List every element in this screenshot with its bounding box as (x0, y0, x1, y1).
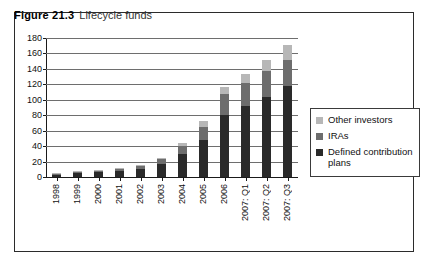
y-tick-label-180: 180 (27, 34, 42, 43)
legend-swatch-iras-icon (316, 133, 323, 140)
bar-segment-0 (178, 154, 188, 177)
bar-2007-q1[interactable] (241, 74, 251, 177)
x-tick-mark-6 (183, 177, 184, 181)
x-tick-label-2007-q1: 2007: Q1 (241, 184, 250, 221)
x-tick-mark-3 (120, 177, 121, 181)
bar-2002[interactable] (136, 165, 146, 177)
x-tick-mark-5 (162, 177, 163, 181)
bar-2005[interactable] (199, 121, 209, 177)
bar-segment-0 (220, 115, 230, 177)
chart-legend: Other investorsIRAsDefined contribution … (310, 108, 420, 177)
bar-2006[interactable] (220, 87, 230, 177)
gridline-0 (46, 177, 298, 178)
x-tick-label-2007-q3: 2007: Q3 (283, 184, 292, 221)
y-tick-label-60: 60 (32, 126, 42, 135)
bar-segment-1 (241, 83, 251, 106)
bar-segment-0 (283, 86, 293, 177)
x-tick-mark-2 (99, 177, 100, 181)
x-tick-label-2001: 2001 (115, 184, 124, 204)
legend-label: Defined contribution plans (328, 147, 414, 169)
y-tick-label-100: 100 (27, 95, 42, 104)
y-tick-mark-0 (43, 177, 46, 178)
x-tick-label-2006: 2006 (220, 184, 229, 204)
chart-area: 020406080100120140160180 199819992000200… (14, 30, 386, 235)
bar-segment-0 (262, 97, 272, 177)
x-tick-label-2007-q2: 2007: Q2 (262, 184, 271, 221)
legend-swatch-defined-contribution-plans-icon (316, 149, 323, 156)
x-tick-label-2002: 2002 (136, 184, 145, 204)
x-tick-label-1998: 1998 (52, 184, 61, 204)
x-tick-mark-0 (57, 177, 58, 181)
bar-segment-1 (199, 127, 209, 140)
figure-caption: Figure 21.3Lifecycle funds (14, 9, 152, 21)
y-tick-label-20: 20 (32, 157, 42, 166)
bar-segment-1 (220, 94, 230, 115)
x-tick-label-2003: 2003 (157, 184, 166, 204)
bar-segment-0 (136, 169, 146, 177)
legend-item-defined-contribution-plans[interactable]: Defined contribution plans (316, 147, 414, 169)
y-tick-label-140: 140 (27, 64, 42, 73)
bars-layer (46, 38, 298, 177)
figure-number: Figure 21.3 (14, 9, 74, 21)
bar-segment-2 (262, 60, 272, 71)
x-tick-label-2000: 2000 (94, 184, 103, 204)
legend-label: IRAs (328, 131, 349, 142)
bar-2007-q2[interactable] (262, 60, 272, 177)
y-tick-label-0: 0 (37, 173, 42, 182)
bar-segment-0 (199, 140, 209, 177)
y-tick-label-80: 80 (32, 111, 42, 120)
legend-item-other-investors[interactable]: Other investors (316, 115, 414, 126)
x-tick-label-2004: 2004 (178, 184, 187, 204)
bar-segment-1 (283, 60, 293, 86)
y-tick-label-160: 160 (27, 49, 42, 58)
y-tick-label-120: 120 (27, 80, 42, 89)
x-tick-label-2005: 2005 (199, 184, 208, 204)
bar-segment-1 (262, 71, 272, 96)
y-tick-label-40: 40 (32, 142, 42, 151)
x-tick-mark-9 (246, 177, 247, 181)
bar-segment-2 (241, 74, 251, 82)
plot-region: 020406080100120140160180 199819992000200… (46, 38, 298, 177)
legend-label: Other investors (328, 115, 392, 126)
bar-segment-1 (178, 146, 188, 154)
bar-2000[interactable] (94, 170, 104, 177)
x-tick-mark-7 (204, 177, 205, 181)
x-tick-mark-10 (267, 177, 268, 181)
bar-2007-q3[interactable] (283, 45, 293, 177)
bar-2001[interactable] (115, 168, 125, 177)
bar-segment-0 (241, 106, 251, 177)
bar-2004[interactable] (178, 143, 188, 177)
x-tick-mark-11 (288, 177, 289, 181)
x-tick-mark-1 (78, 177, 79, 181)
x-tick-mark-4 (141, 177, 142, 181)
legend-swatch-other-investors-icon (316, 117, 323, 124)
bar-segment-2 (220, 87, 230, 94)
figure-title: Lifecycle funds (79, 9, 152, 21)
x-tick-label-1999: 1999 (73, 184, 82, 204)
legend-item-iras[interactable]: IRAs (316, 131, 414, 142)
bar-2003[interactable] (157, 158, 167, 177)
bar-segment-2 (283, 45, 293, 60)
bar-segment-0 (157, 164, 167, 177)
x-tick-mark-8 (225, 177, 226, 181)
